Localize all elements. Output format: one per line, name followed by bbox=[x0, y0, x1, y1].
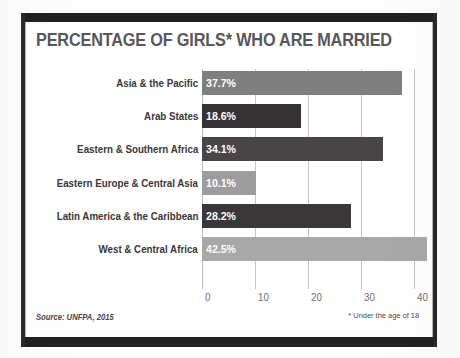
chart-card: PERCENTAGE OF GIRLS* WHO ARE MARRIED Asi… bbox=[25, 22, 433, 337]
category-label: Asia & the Pacific bbox=[116, 71, 198, 95]
card-rule-left bbox=[25, 22, 26, 337]
plot-area: Asia & the Pacific37.7%Arab States18.6%E… bbox=[202, 69, 414, 289]
bar-row: Eastern Europe & Central Asia10.1% bbox=[202, 171, 414, 195]
bar-row: West & Central Africa42.5% bbox=[202, 237, 414, 261]
bar-series: Asia & the Pacific37.7%Arab States18.6%E… bbox=[202, 69, 414, 289]
poster-page: PERCENTAGE OF GIRLS* WHO ARE MARRIED Asi… bbox=[0, 0, 460, 358]
x-tick-label-10: 10 bbox=[258, 291, 269, 303]
category-label: Eastern Europe & Central Asia bbox=[57, 171, 198, 195]
card-rule-right bbox=[432, 22, 433, 337]
x-tick-label-0: 0 bbox=[205, 291, 210, 303]
footnote-age: * Under the age of 18 bbox=[348, 311, 419, 320]
x-tick-label-40: 40 bbox=[417, 291, 428, 303]
bar-row: Asia & the Pacific37.7% bbox=[202, 71, 414, 95]
page-title: PERCENTAGE OF GIRLS* WHO ARE MARRIED bbox=[36, 30, 392, 51]
frame-band-bottom bbox=[22, 337, 437, 347]
x-tick-label-20: 20 bbox=[311, 291, 322, 303]
bar-value-label: 28.2% bbox=[206, 204, 236, 228]
category-label: Arab States bbox=[144, 104, 198, 128]
bar-value-label: 34.1% bbox=[206, 137, 236, 161]
category-label: West & Central Africa bbox=[99, 237, 198, 261]
source-note: Source: UNFPA, 2015 bbox=[36, 312, 114, 322]
bar-row: Eastern & Southern Africa34.1% bbox=[202, 137, 414, 161]
bar-row: Arab States18.6% bbox=[202, 104, 414, 128]
bar-value-label: 37.7% bbox=[206, 71, 236, 95]
bar-value-label: 42.5% bbox=[206, 237, 236, 261]
frame-band-right bbox=[433, 13, 437, 347]
bar-value-label: 10.1% bbox=[206, 171, 236, 195]
category-label: Latin America & the Caribbean bbox=[56, 204, 198, 228]
frame-band-top bbox=[22, 13, 437, 22]
bar-row: Latin America & the Caribbean28.2% bbox=[202, 204, 414, 228]
bar-value-label: 18.6% bbox=[206, 104, 236, 128]
category-label: Eastern & Southern Africa bbox=[77, 137, 198, 161]
x-tick-label-30: 30 bbox=[364, 291, 375, 303]
